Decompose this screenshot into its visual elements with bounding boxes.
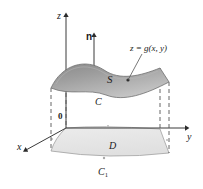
surface-equation-operator: = bbox=[136, 43, 142, 53]
figure-surface-over-region: z n z = g(x, y) S C 0 x y D C1 bbox=[0, 0, 203, 189]
normal-vector-label: n bbox=[86, 32, 92, 42]
figure-canvas bbox=[0, 0, 203, 189]
z-axis-label: z bbox=[57, 11, 61, 21]
region-boundary-marker bbox=[103, 157, 105, 159]
region-boundary-curve-base: C bbox=[98, 166, 105, 177]
region-d-label: D bbox=[109, 141, 116, 151]
region-boundary-marker bbox=[166, 139, 168, 141]
surface-equation-lhs: z bbox=[130, 43, 134, 53]
region-boundary-curve-subscript: 1 bbox=[105, 171, 108, 178]
surface-equation-rhs: g(x, y) bbox=[144, 43, 167, 53]
boundary-curve-label: C bbox=[95, 97, 102, 107]
region-boundary-marker bbox=[107, 125, 109, 127]
surface-label: S bbox=[107, 74, 113, 85]
origin-label: 0 bbox=[58, 112, 63, 121]
surface-equation-label: z = g(x, y) bbox=[130, 44, 167, 53]
region-boundary-curve-label: C1 bbox=[98, 167, 108, 178]
x-axis-label: x bbox=[17, 142, 21, 152]
y-axis-label: y bbox=[187, 132, 191, 142]
